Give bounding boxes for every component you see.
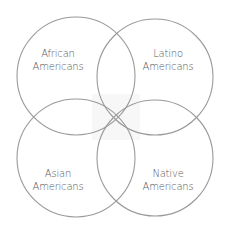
label-native-americans: Native Americans (133, 167, 203, 193)
label-asian-americans: Asian Americans (23, 167, 93, 193)
label-line1: Latino (133, 47, 203, 60)
venn-diagram: African Americans Latino Americans Asian… (0, 0, 227, 232)
label-line1: African (23, 47, 93, 60)
label-african-americans: African Americans (23, 47, 93, 73)
circle-native-americans (97, 100, 213, 216)
circle-asian-americans (17, 99, 135, 217)
venn-circles (0, 0, 227, 232)
label-line2: Americans (23, 60, 93, 73)
label-line1: Asian (23, 167, 93, 180)
circle-african-americans (17, 17, 135, 135)
label-line2: Americans (133, 180, 203, 193)
circle-latino-americans (97, 19, 213, 135)
label-latino-americans: Latino Americans (133, 47, 203, 73)
label-line1: Native (133, 167, 203, 180)
label-line2: Americans (23, 180, 93, 193)
label-line2: Americans (133, 60, 203, 73)
